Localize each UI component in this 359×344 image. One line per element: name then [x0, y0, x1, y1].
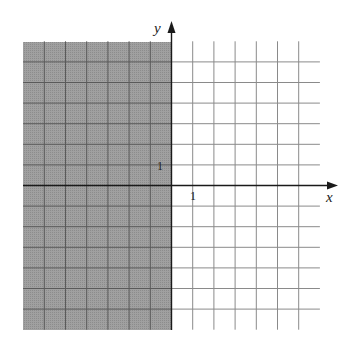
x-tick-label-1: 1 — [190, 189, 196, 203]
coordinate-plane: x y 1 1 — [0, 0, 359, 344]
y-axis-arrow-icon — [168, 21, 176, 33]
x-axis-label: x — [325, 189, 333, 205]
y-axis-label: y — [152, 20, 161, 36]
y-tick-label-1: 1 — [157, 159, 163, 173]
